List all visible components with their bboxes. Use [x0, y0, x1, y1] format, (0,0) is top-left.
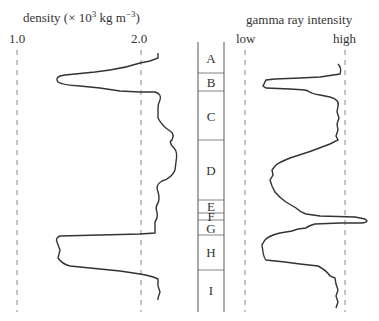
layer-label-c: C: [207, 109, 216, 124]
layer-label-a: A: [206, 51, 216, 66]
layer-label-b: B: [207, 75, 216, 90]
layer-label-h: H: [206, 245, 215, 260]
gamma-ray-curve: [262, 64, 367, 308]
well-log-diagram: A B C D E F G H I: [0, 0, 379, 321]
density-reference-lines: [17, 50, 141, 312]
layer-label-g: G: [206, 221, 215, 236]
density-curve: [56, 53, 176, 300]
layer-label-i: I: [209, 283, 213, 298]
layer-label-d: D: [206, 163, 215, 178]
strata-column: A B C D E F G H I: [198, 42, 224, 312]
